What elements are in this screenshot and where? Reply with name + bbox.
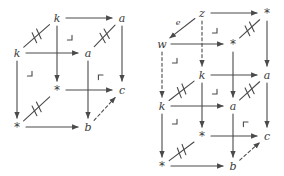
pushout-corner-marker: [98, 75, 103, 80]
node-label-R_a_front: a: [230, 100, 237, 113]
node-label-L_k_front: k: [14, 47, 21, 60]
edge-L_a_front-to-L_a_back: [94, 25, 115, 46]
edge-R_z-to-R_w: [170, 19, 195, 38]
node-label-R_w: w: [157, 38, 167, 51]
edge-L_s_front-to-L_s_back: [24, 97, 50, 121]
node-label-R_b_front: b: [229, 160, 236, 173]
pullback-corner-marker: [172, 58, 177, 63]
node-label-R_s_top: *: [264, 6, 270, 20]
edge-L_b_front-to-L_c_back: [94, 97, 115, 120]
diagram-canvas: kaka*c*bz*w*kaka*c*b e: [0, 0, 284, 176]
edge-R_k_front-to-R_k_back: [169, 81, 194, 100]
node-label-R_c_back: c: [264, 130, 270, 143]
equality-tick-1: [249, 22, 254, 32]
pullback-corner-marker: [212, 28, 217, 33]
node-label-R_k_front: k: [159, 100, 166, 113]
node-label-L_s_back: *: [54, 83, 60, 97]
node-label-R_k_back: k: [199, 69, 206, 82]
pullback-corner-marker: [212, 89, 217, 94]
edge-R_s_front-to-R_s_back: [169, 142, 194, 161]
node-label-L_a_back: a: [119, 12, 126, 25]
equality-tick-1: [104, 29, 109, 38]
pullback-corner-marker: [67, 35, 72, 40]
edge-label-0: e: [176, 18, 181, 27]
equality-tick-0: [177, 88, 181, 98]
node-label-R_s_mid: *: [230, 37, 236, 51]
node-label-R_s_back: *: [199, 129, 205, 143]
equality-tick-1: [249, 84, 254, 94]
edge-labels-layer: e: [176, 18, 181, 27]
pullback-corner-marker: [172, 119, 177, 124]
equality-tick-0: [100, 33, 105, 42]
edge-L_k_front-to-L_k_back: [24, 25, 50, 47]
edge-R_s_mid-to-R_s_top: [240, 20, 260, 38]
equality-tick-0: [245, 88, 250, 98]
equality-tick-0: [245, 26, 250, 36]
equality-tick-1: [182, 84, 186, 94]
equality-tick-0: [177, 148, 181, 158]
edge-R_a_front-to-R_a_back: [240, 82, 260, 100]
equality-tick-1: [37, 29, 42, 39]
edge-R_b_front-to-R_c_back: [240, 143, 260, 160]
equality-tick-0: [32, 106, 37, 116]
pullback-corner-marker: [27, 71, 32, 76]
node-label-R_a_back: a: [264, 69, 271, 82]
equality-tick-0: [32, 33, 37, 43]
node-label-L_s_front: *: [14, 120, 20, 134]
node-label-R_s_front: *: [159, 159, 165, 173]
node-label-L_a_front: a: [85, 47, 92, 60]
corner-markers-layer: [27, 28, 248, 126]
commutative-cube-figure: kaka*c*bz*w*kaka*c*b e: [0, 0, 284, 176]
nodes-layer: kaka*c*bz*w*kaka*c*b: [14, 6, 271, 173]
equality-tick-1: [36, 102, 41, 112]
pushout-corner-marker: [243, 122, 248, 127]
node-label-R_z: z: [198, 7, 205, 20]
equality-tick-1: [182, 144, 186, 154]
node-label-L_k_back: k: [54, 12, 61, 25]
node-label-L_b_front: b: [84, 121, 91, 134]
node-label-L_c_back: c: [119, 84, 125, 97]
